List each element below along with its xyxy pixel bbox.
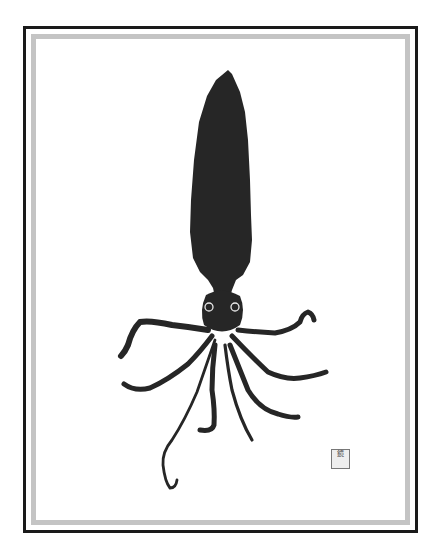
seal-glyph: 鏡 xyxy=(332,450,349,468)
artist-seal-stamp: 鏡 xyxy=(331,449,350,469)
squid-print xyxy=(0,0,438,555)
